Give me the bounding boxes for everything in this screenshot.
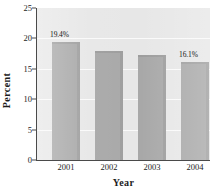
y-tick-mark <box>32 38 36 39</box>
y-tick-mark <box>32 129 36 130</box>
y-tick-label: 10 <box>24 95 33 104</box>
y-tick-mark <box>32 68 36 69</box>
x-tick-label-2003: 2003 <box>144 163 161 172</box>
bar-cap <box>52 42 80 44</box>
y-tick-mark <box>32 8 36 9</box>
y-tick-label: 25 <box>24 4 33 13</box>
bar-cap <box>95 51 123 53</box>
bar-value-label-2001: 19.4% <box>50 31 69 39</box>
y-tick-mark <box>32 99 36 100</box>
x-tick-label-2002: 2002 <box>101 163 118 172</box>
bar-2002 <box>95 51 123 160</box>
bar-value-label-2004: 16.1% <box>179 51 198 59</box>
bar-chart-figure: Percent 25 20 15 10 5 0 19.4% 16.1% <box>0 0 222 192</box>
x-tick-label-2004: 2004 <box>187 163 204 172</box>
y-tick-label: 15 <box>24 65 33 74</box>
bar-2003 <box>138 55 166 160</box>
plot-area: 19.4% 16.1% <box>37 8 210 160</box>
x-tick-label-2001: 2001 <box>58 163 75 172</box>
y-tick-mark <box>32 160 36 161</box>
y-axis-title: Percent <box>0 52 14 128</box>
bar-cap <box>138 55 166 57</box>
y-axis-title-text: Percent <box>2 72 13 107</box>
x-axis-title: Year <box>37 177 210 188</box>
x-axis-line <box>36 160 210 161</box>
y-axis-tick-labels: 25 20 15 10 5 0 <box>14 8 34 160</box>
bar-2004 <box>181 62 209 160</box>
x-axis-tick-labels: 2001 2002 2003 2004 <box>37 163 210 176</box>
y-axis-line <box>36 8 37 161</box>
bar-cap <box>181 62 209 64</box>
bar-2001 <box>52 42 80 160</box>
y-tick-label: 20 <box>24 34 33 43</box>
